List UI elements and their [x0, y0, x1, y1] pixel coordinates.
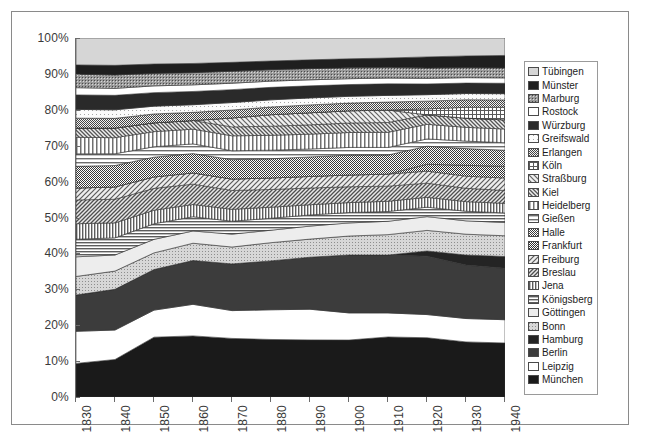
- legend-label: Münster: [542, 80, 578, 91]
- legend-swatch-icon: [528, 214, 539, 223]
- legend-label: Heidelberg: [542, 200, 590, 211]
- legend-swatch-icon: [528, 322, 539, 331]
- legend-label: Straßburg: [542, 173, 586, 184]
- legend-swatch-icon: [528, 268, 539, 277]
- x-tick-mark: [270, 397, 271, 402]
- y-tick-mark: [75, 289, 80, 290]
- legend-item-breslau[interactable]: Breslau: [528, 266, 595, 279]
- legend-swatch-icon: [528, 348, 539, 357]
- legend-item-stra-burg[interactable]: Straßburg: [528, 172, 595, 185]
- legend-swatch-icon: [528, 362, 539, 371]
- legend-item-m-nchen[interactable]: München: [528, 373, 595, 386]
- legend-item-w-rzburg[interactable]: Würzburg: [528, 119, 595, 132]
- y-tick-mark: [75, 74, 80, 75]
- y-tick-mark: [75, 182, 80, 183]
- legend-item-halle[interactable]: Halle: [528, 226, 595, 239]
- y-tick-mark: [75, 361, 80, 362]
- legend-swatch-icon: [528, 107, 539, 116]
- legend-label: Königsberg: [542, 294, 593, 305]
- legend-item-hamburg[interactable]: Hamburg: [528, 333, 595, 346]
- x-tick-label: 1890: [314, 405, 328, 433]
- y-tick-label: 90%: [44, 67, 69, 81]
- legend-swatch-icon: [528, 81, 539, 90]
- legend-item-m-nster[interactable]: Münster: [528, 78, 595, 91]
- legend-swatch-icon: [528, 255, 539, 264]
- x-tick-label: 1920: [431, 405, 445, 433]
- y-tick-label: 60%: [44, 175, 69, 189]
- area-series-group: [76, 38, 505, 397]
- y-tick-label: 70%: [44, 139, 69, 153]
- y-tick-label: 10%: [44, 354, 69, 368]
- legend-label: Jena: [542, 280, 564, 291]
- legend-item-kiel[interactable]: Kiel: [528, 186, 595, 199]
- legend-label: Leipzig: [542, 361, 574, 372]
- y-tick-mark: [75, 38, 80, 39]
- x-tick-label: 1840: [119, 405, 133, 433]
- y-tick-mark: [75, 325, 80, 326]
- legend-label: Würzburg: [542, 120, 585, 131]
- legend-swatch-icon: [528, 335, 539, 344]
- x-tick-label: 1910: [392, 405, 406, 433]
- x-tick-mark: [114, 397, 115, 402]
- y-tick-label: 20%: [44, 318, 69, 332]
- legend-item-freiburg[interactable]: Freiburg: [528, 252, 595, 265]
- legend-swatch-icon: [528, 148, 539, 157]
- y-tick-mark: [75, 397, 80, 398]
- chart-frame: 0%10%20%30%40%50%60%70%80%90%100% 183018…: [11, 11, 629, 425]
- legend-item-marburg[interactable]: Marburg: [528, 92, 595, 105]
- y-tick-label: 0%: [51, 390, 69, 404]
- legend-swatch-icon: [528, 228, 539, 237]
- legend-swatch-icon: [528, 201, 539, 210]
- x-tick-mark: [309, 397, 310, 402]
- legend-item-jena[interactable]: Jena: [528, 279, 595, 292]
- legend-label: Erlangen: [542, 147, 582, 158]
- x-tick-label: 1930: [470, 405, 484, 433]
- legend-item-k-nigsberg[interactable]: Königsberg: [528, 293, 595, 306]
- legend-item-k-ln[interactable]: Köln: [528, 159, 595, 172]
- legend-item-erlangen[interactable]: Erlangen: [528, 145, 595, 158]
- legend-swatch-icon: [528, 375, 539, 384]
- legend-item-leipzig[interactable]: Leipzig: [528, 360, 595, 373]
- legend-item-frankfurt[interactable]: Frankfurt: [528, 239, 595, 252]
- legend-item-gie-en[interactable]: Gießen: [528, 212, 595, 225]
- legend-label: Rostock: [542, 106, 578, 117]
- legend-item-t-bingen[interactable]: Tübingen: [528, 65, 595, 78]
- legend-item-g-ttingen[interactable]: Göttingen: [528, 306, 595, 319]
- legend-item-greifswald[interactable]: Greifswald: [528, 132, 595, 145]
- y-axis: 0%10%20%30%40%50%60%70%80%90%100%: [12, 38, 69, 397]
- x-tick-label: 1850: [158, 405, 172, 433]
- legend-swatch-icon: [528, 281, 539, 290]
- legend-label: Halle: [542, 227, 565, 238]
- legend-label: Gießen: [542, 213, 575, 224]
- chart-legend: TübingenMünsterMarburgRostockWürzburgGre…: [524, 61, 598, 395]
- x-tick-mark: [231, 397, 232, 402]
- legend-label: Köln: [542, 160, 562, 171]
- legend-swatch-icon: [528, 174, 539, 183]
- y-tick-mark: [75, 110, 80, 111]
- plot-area: [75, 38, 504, 397]
- legend-swatch-icon: [528, 295, 539, 304]
- legend-item-bonn[interactable]: Bonn: [528, 319, 595, 332]
- y-tick-mark: [75, 146, 80, 147]
- stacked-area-plot: [76, 38, 505, 397]
- legend-swatch-icon: [528, 308, 539, 317]
- y-tick-label: 30%: [44, 282, 69, 296]
- x-tick-mark: [426, 397, 427, 402]
- legend-label: Bonn: [542, 321, 565, 332]
- x-tick-label: 1860: [197, 405, 211, 433]
- x-tick-mark: [192, 397, 193, 402]
- x-tick-mark: [465, 397, 466, 402]
- x-tick-mark: [153, 397, 154, 402]
- legend-swatch-icon: [528, 161, 539, 170]
- legend-item-heidelberg[interactable]: Heidelberg: [528, 199, 595, 212]
- y-tick-mark: [75, 253, 80, 254]
- legend-label: Hamburg: [542, 334, 583, 345]
- legend-swatch-icon: [528, 121, 539, 130]
- legend-label: Breslau: [542, 267, 576, 278]
- legend-swatch-icon: [528, 94, 539, 103]
- x-tick-label: 1940: [509, 405, 523, 433]
- legend-label: Greifswald: [542, 133, 589, 144]
- x-tick-mark: [504, 397, 505, 402]
- legend-item-rostock[interactable]: Rostock: [528, 105, 595, 118]
- legend-item-berlin[interactable]: Berlin: [528, 346, 595, 359]
